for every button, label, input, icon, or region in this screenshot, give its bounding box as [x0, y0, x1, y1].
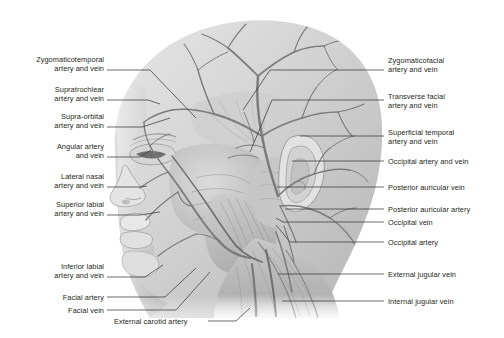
label-line: Internal jugular vein — [388, 297, 498, 306]
label-line: Zygomaticotemporal — [8, 55, 104, 64]
label-inferior-labial: Inferior labialartery and vein — [8, 262, 104, 280]
label-internal-jugular-vein: Internal jugular vein — [388, 297, 498, 306]
label-line: Occipital artery — [388, 238, 498, 247]
label-line: Inferior labial — [8, 262, 104, 271]
label-occipital-vein: Occipital vein — [388, 218, 498, 227]
label-line: artery and vein — [388, 65, 498, 74]
label-line: Zygomaticofacial — [388, 56, 498, 65]
label-line: Lateral nasal — [8, 172, 104, 181]
label-line: artery and vein — [8, 209, 104, 218]
label-supratrochlear: Supratrochlearartery and vein — [8, 85, 104, 103]
label-line: artery and vein — [388, 137, 498, 146]
label-facial-vein: Facial vein — [8, 306, 104, 315]
label-line: Facial vein — [8, 306, 104, 315]
label-occipital-artery: Occipital artery — [388, 238, 498, 247]
label-line: Angular artery — [8, 142, 104, 151]
label-line: artery and vein — [388, 101, 498, 110]
label-zygomaticotemporal: Zygomaticotemporalartery and vein — [8, 55, 104, 73]
label-line: artery and vein — [8, 64, 104, 73]
label-line: Superior labial — [8, 200, 104, 209]
label-lateral-nasal: Lateral nasalartery and vein — [8, 172, 104, 190]
label-supra-orbital: Supra-orbitalartery and vein — [8, 112, 104, 130]
label-angular: Angular arteryand vein — [8, 142, 104, 160]
label-line: Occipital vein — [388, 218, 498, 227]
figure-page: Zygomaticotemporalartery and veinSupratr… — [0, 0, 504, 338]
label-superficial-temporal: Superficial temporalartery and vein — [388, 128, 498, 146]
label-external-carotid-artery: External carotid artery — [114, 317, 204, 326]
label-line: artery and vein — [8, 271, 104, 280]
label-line: Occipital artery and vein — [388, 157, 498, 166]
label-line: Superficial temporal — [388, 128, 498, 137]
label-line: artery and vein — [8, 121, 104, 130]
label-transverse-facial: Transverse facialartery and vein — [388, 92, 498, 110]
label-line: External jugular vein — [388, 270, 498, 279]
label-line: artery and vein — [8, 94, 104, 103]
label-line: External carotid artery — [114, 317, 204, 326]
label-zygomaticofacial: Zygomaticofacialartery and vein — [388, 56, 498, 74]
label-occipital-artery-and-vein: Occipital artery and vein — [388, 157, 498, 166]
label-line: Posterior auricular artery — [388, 205, 498, 214]
label-line: Supratrochlear — [8, 85, 104, 94]
label-facial-artery: Facial artery — [8, 293, 104, 302]
label-line: artery and vein — [8, 181, 104, 190]
label-posterior-auricular-artery: Posterior auricular artery — [388, 205, 498, 214]
label-line: Supra-orbital — [8, 112, 104, 121]
label-superior-labial: Superior labialartery and vein — [8, 200, 104, 218]
label-line: Facial artery — [8, 293, 104, 302]
label-line: Posterior auricular vein — [388, 183, 498, 192]
label-external-jugular-vein: External jugular vein — [388, 270, 498, 279]
anatomy-illustration — [0, 0, 504, 338]
label-line: and vein — [8, 151, 104, 160]
label-line: Transverse facial — [388, 92, 498, 101]
label-posterior-auricular-vein: Posterior auricular vein — [388, 183, 498, 192]
